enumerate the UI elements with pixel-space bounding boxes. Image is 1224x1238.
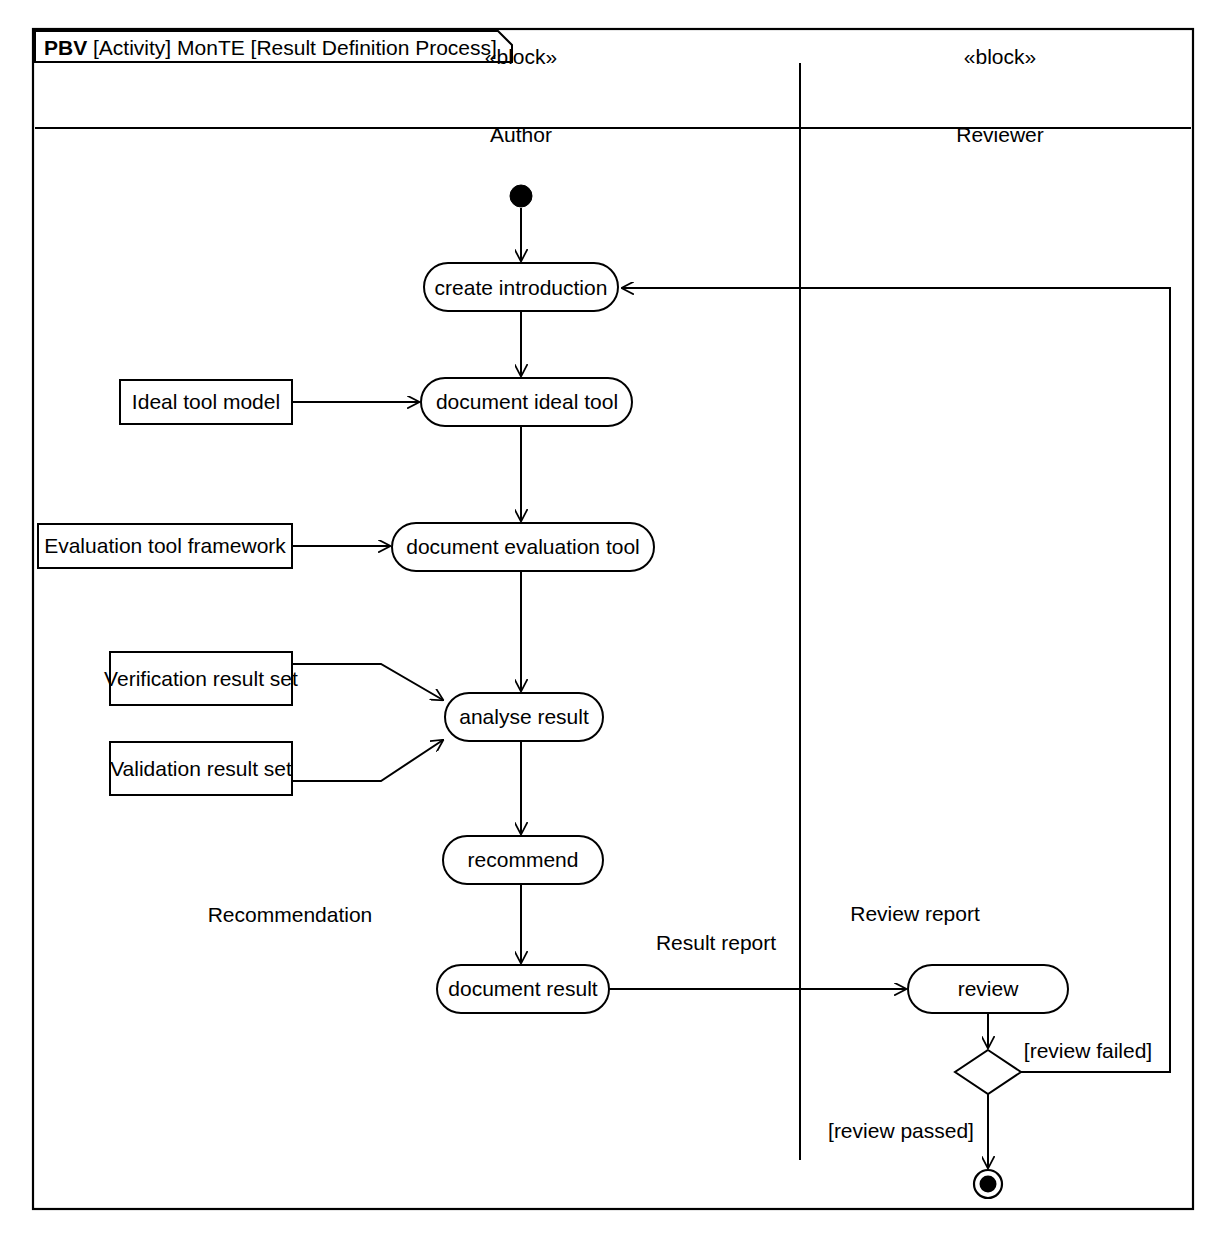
edge-verification-result-set-to-analyse-result: [292, 664, 443, 700]
action-analyse-result-shape[interactable]: [445, 693, 603, 741]
diagram-vector-layer: [0, 0, 1224, 1238]
initial-node: [510, 185, 532, 207]
action-review-shape[interactable]: [908, 965, 1068, 1013]
action-create-introduction-shape[interactable]: [424, 263, 618, 311]
object-node-validation-result-set-shape[interactable]: [110, 742, 292, 795]
action-document-ideal-tool-shape[interactable]: [421, 378, 632, 426]
action-document-result-shape[interactable]: [437, 965, 609, 1013]
object-node-verification-result-set-shape[interactable]: [110, 652, 292, 705]
edge-decision-to-create-introduction-review-failed: [622, 288, 1170, 1072]
diagram-frame: [33, 29, 1193, 1209]
activity-diagram-canvas: PBV [Activity] MonTE [Result Definition …: [0, 0, 1224, 1238]
final-node: [974, 1170, 1002, 1198]
object-node-ideal-tool-model-shape[interactable]: [120, 380, 292, 424]
decision-node-shape[interactable]: [955, 1050, 1021, 1094]
edge-validation-result-set-to-analyse-result: [292, 740, 443, 781]
action-document-evaluation-tool-shape[interactable]: [392, 523, 654, 571]
control-flow-edges: [292, 208, 1170, 1168]
object-node-evaluation-tool-framework-shape[interactable]: [38, 524, 292, 568]
action-recommend-shape[interactable]: [443, 836, 603, 884]
frame-name-tab: [35, 31, 512, 62]
